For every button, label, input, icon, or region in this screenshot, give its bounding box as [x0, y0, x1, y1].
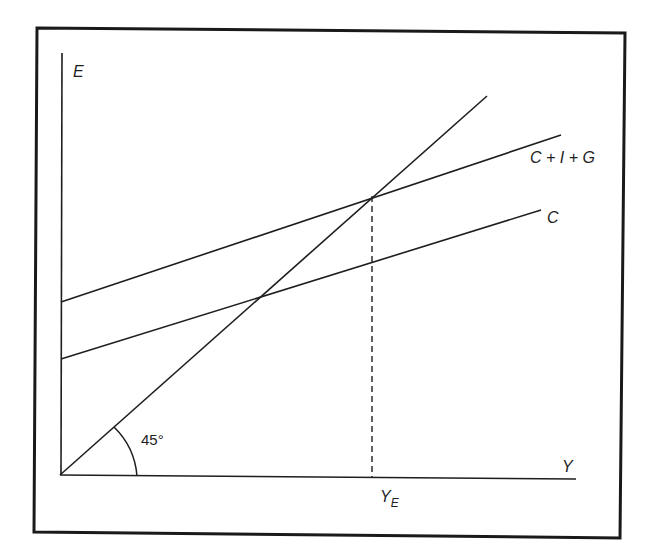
- equilibrium-income-subscript: E: [391, 496, 400, 510]
- consumption-line: [61, 210, 541, 359]
- frame-border: [34, 28, 625, 538]
- aggregate-expenditure-label: C + I + G: [530, 149, 595, 166]
- consumption-label: C: [547, 209, 559, 226]
- keynesian-cross-diagram: E Y C + I + G C 45° YE: [0, 0, 651, 556]
- y-axis: [61, 53, 62, 475]
- equilibrium-income-label: YE: [380, 488, 400, 510]
- 45-degree-line: [60, 96, 487, 475]
- angle-arc: [114, 427, 137, 476]
- x-axis-label: Y: [562, 458, 574, 475]
- y-axis-label: E: [73, 63, 84, 80]
- aggregate-expenditure-line: [61, 135, 561, 302]
- angle-label: 45°: [141, 431, 164, 448]
